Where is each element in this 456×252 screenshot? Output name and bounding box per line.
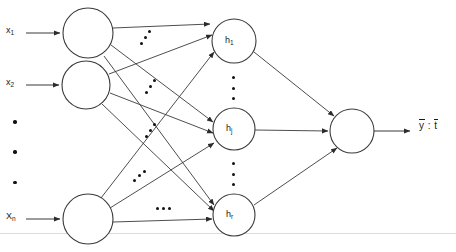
ellipsis-dot xyxy=(232,183,235,186)
hidden-to-output-edges xyxy=(254,52,337,205)
input-label-xn: Xn xyxy=(6,212,16,221)
ellipsis-dot xyxy=(140,42,143,45)
ellipsis-dot xyxy=(149,85,152,88)
ellipsis-dot xyxy=(144,36,147,39)
edge-in2-h1 xyxy=(109,35,212,74)
hidden-node-hj xyxy=(213,108,255,150)
input-node-2 xyxy=(62,61,110,109)
edge-hj-out xyxy=(255,130,328,131)
input-label-x2: x2 xyxy=(6,78,14,87)
hidden-node-h1 xyxy=(212,19,256,63)
edge-in2-hr xyxy=(102,104,214,211)
output-node xyxy=(330,109,374,153)
input-node-1 xyxy=(63,8,113,58)
hidden-node-label-hj: hj xyxy=(226,124,232,133)
ellipsis-dot xyxy=(149,129,152,132)
weight-ellipsis-a xyxy=(140,30,154,46)
input-layer-nodes xyxy=(62,8,113,244)
edge-in1-hj xyxy=(111,45,213,122)
ellipsis-dot xyxy=(232,173,235,176)
input-node-n xyxy=(63,194,113,244)
output-label-t: t xyxy=(434,121,437,131)
ellipsis-dot xyxy=(13,150,17,154)
weight-ellipsis-d xyxy=(133,170,149,184)
neural-network-diagram: x1 x2 Xn h1 hj hr xyxy=(0,0,456,252)
input-layer-vertical-ellipsis xyxy=(13,120,17,184)
output-label-y: y xyxy=(419,121,425,131)
ellipsis-dot xyxy=(162,207,165,210)
ellipsis-dot xyxy=(168,207,171,210)
ellipsis-dot xyxy=(153,123,156,126)
edge-hr-out xyxy=(254,148,337,205)
output-layer-node xyxy=(330,109,374,153)
ellipsis-dot xyxy=(153,79,156,82)
weight-ellipsis-b xyxy=(145,79,159,95)
ellipsis-dot xyxy=(232,162,235,165)
ellipsis-dot xyxy=(133,179,136,182)
edge-inn-hr xyxy=(113,219,212,222)
ellipsis-dot xyxy=(145,91,148,94)
edge-inn-hj xyxy=(110,143,214,208)
output-label-separator: : xyxy=(425,120,435,131)
ellipsis-dot xyxy=(148,30,151,33)
ellipsis-dot xyxy=(13,181,17,185)
ellipsis-dot xyxy=(232,97,235,100)
hidden-layer-nodes xyxy=(212,19,256,236)
ellipsis-dot xyxy=(156,207,159,210)
edge-in1-hr xyxy=(104,56,214,205)
hidden-node-label-hr: hr xyxy=(226,210,233,219)
weight-ellipsis-e xyxy=(156,207,174,213)
input-arrows xyxy=(26,33,60,219)
edge-in1-h1 xyxy=(113,24,210,28)
output-label: y : t xyxy=(419,121,438,131)
hidden-node-label-h1: h1 xyxy=(225,36,234,45)
hidden-layer-ellipsis-lower xyxy=(232,162,235,186)
ellipsis-dot xyxy=(232,76,235,79)
input-label-x1: x1 xyxy=(6,26,14,35)
weight-ellipsis-c xyxy=(145,123,159,139)
hidden-layer-ellipsis-upper xyxy=(232,76,235,100)
ellipsis-dot xyxy=(143,170,146,173)
hidden-node-hr xyxy=(213,194,255,236)
ellipsis-dot xyxy=(13,120,17,124)
ellipsis-dot xyxy=(232,87,235,90)
edge-h1-out xyxy=(254,52,334,116)
ellipsis-dot xyxy=(138,174,141,177)
ellipsis-dot xyxy=(145,135,148,138)
